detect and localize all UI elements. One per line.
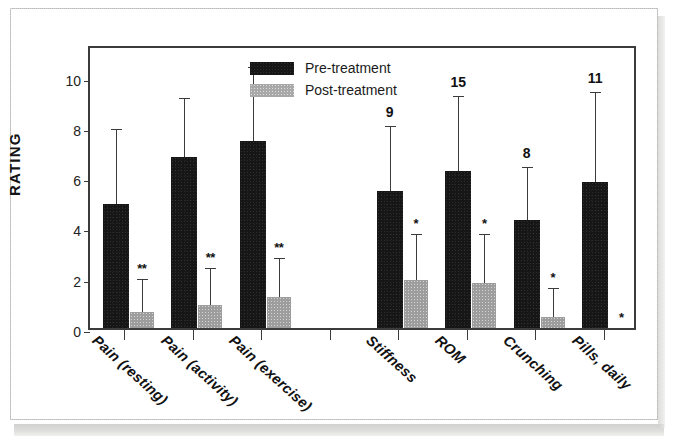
legend-item-post: Post-treatment xyxy=(250,80,397,100)
legend: Pre-treatment Post-treatment xyxy=(250,58,397,102)
x-axis-label-rom: ROM xyxy=(432,332,468,367)
bar-post-treatment xyxy=(267,297,291,328)
legend-swatch-post-treatment xyxy=(250,84,294,97)
chart-page: RATING 1086420 ******9*15*8*11* Pre-trea… xyxy=(0,0,677,442)
significance-marker: * xyxy=(413,217,418,230)
bar-pre-treatment xyxy=(240,141,266,328)
top-annotation: 8 xyxy=(523,146,531,160)
error-bar-pre-treatment xyxy=(527,167,528,220)
y-axis-title: RATING xyxy=(6,132,23,196)
bar-pre-treatment xyxy=(582,182,608,328)
y-axis-tick-4: 4 xyxy=(36,223,90,239)
error-bar-pre-treatment xyxy=(116,129,117,203)
y-axis-tick-0: 0 xyxy=(36,324,90,340)
bar-pre-treatment xyxy=(377,191,403,328)
bar-post-treatment xyxy=(404,280,428,328)
x-axis-label-crunching: Crunching xyxy=(501,332,567,394)
bar-pre-treatment xyxy=(171,157,197,328)
significance-marker: ** xyxy=(274,241,283,254)
y-axis-tick-10: 10 xyxy=(36,73,90,89)
top-annotation: 11 xyxy=(588,71,603,85)
bar-post-treatment xyxy=(198,305,222,328)
bar-post-treatment xyxy=(472,283,496,328)
error-bar-post-treatment xyxy=(279,258,280,297)
bar-pre-treatment xyxy=(445,171,471,328)
x-axis-label-stiffness: Stiffness xyxy=(364,332,421,386)
significance-marker: * xyxy=(482,217,487,230)
significance-marker: ** xyxy=(137,262,146,275)
top-annotation: 9 xyxy=(386,105,394,119)
legend-swatch-pre-treatment xyxy=(250,62,294,75)
x-axis-labels: Pain (resting)Pain (activity)Pain (exerc… xyxy=(88,332,636,438)
top-annotation: 15 xyxy=(450,75,466,89)
legend-label-pre-treatment: Pre-treatment xyxy=(305,60,391,76)
significance-marker: * xyxy=(619,311,624,324)
y-axis-tick-2: 2 xyxy=(36,274,90,290)
bar-pre-treatment xyxy=(103,204,129,328)
error-bar-post-treatment xyxy=(553,288,554,317)
error-bar-pre-treatment xyxy=(390,126,391,191)
error-bar-post-treatment xyxy=(210,268,211,306)
error-bar-post-treatment xyxy=(142,279,143,313)
error-bar-pre-treatment xyxy=(184,98,185,157)
bar-pre-treatment xyxy=(514,220,540,328)
y-axis-tick-8: 8 xyxy=(36,123,90,139)
error-bar-post-treatment xyxy=(416,234,417,280)
page-right-shadow xyxy=(658,16,665,428)
x-axis-label-pills-daily: Pills, daily xyxy=(569,332,634,393)
x-axis-label-pain-exercise: Pain (exercise) xyxy=(227,332,316,414)
bar-post-treatment xyxy=(130,312,154,328)
legend-label-post-treatment: Post-treatment xyxy=(305,82,397,98)
error-bar-pre-treatment xyxy=(595,92,596,182)
error-bar-post-treatment xyxy=(484,234,485,283)
legend-item-pre: Pre-treatment xyxy=(250,58,397,78)
bar-post-treatment xyxy=(541,317,565,328)
error-bar-pre-treatment xyxy=(458,96,459,171)
y-axis-tick-6: 6 xyxy=(36,173,90,189)
plot-area: 1086420 ******9*15*8*11* Pre-treatment P… xyxy=(88,46,636,330)
significance-marker: * xyxy=(550,271,555,284)
significance-marker: ** xyxy=(206,251,215,264)
